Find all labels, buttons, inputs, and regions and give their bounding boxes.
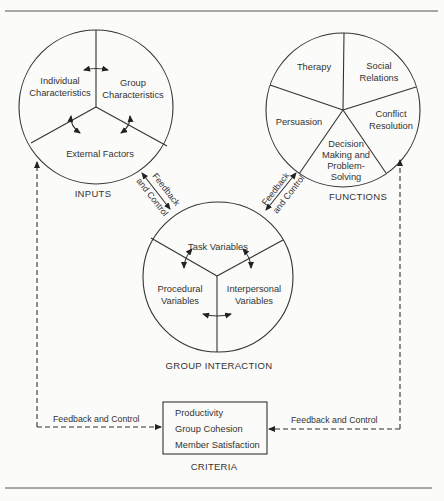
group-procedural-label-2: Variables	[161, 296, 199, 306]
criteria-box: Productivity Group Cohesion Member Satis…	[163, 402, 267, 472]
functions-conflict-label: Conflict	[375, 109, 406, 119]
inputs-group-label: Group	[120, 78, 146, 88]
inputs-individual-label-2: Characteristics	[29, 88, 91, 98]
criteria-item: Member Satisfaction	[175, 440, 260, 450]
inputs-circle: Individual Characteristics Group Charact…	[19, 30, 173, 199]
feedback-bottom-right-label: Feedback and Control	[291, 415, 378, 425]
inputs-external-label: External Factors	[66, 149, 134, 159]
group-dynamics-diagram: Individual Characteristics Group Charact…	[0, 0, 444, 501]
inputs-caption: INPUTS	[75, 188, 112, 199]
double-arrow-icon	[121, 116, 130, 133]
criteria-item: Group Cohesion	[175, 424, 243, 434]
functions-decision-label-2: Making and	[322, 150, 370, 160]
functions-decision-label: Decision	[328, 139, 364, 149]
inputs-individual-label: Individual	[40, 76, 79, 86]
group-interpersonal-label: Interpersonal	[227, 284, 281, 294]
group-procedural-label: Procedural	[158, 284, 203, 294]
functions-decision-label-3: Problem-	[327, 161, 365, 171]
feedback-left-loop: Feedback and Control	[37, 162, 161, 427]
functions-social-label: Social	[366, 61, 391, 71]
functions-caption: FUNCTIONS	[329, 191, 387, 202]
group-interaction-circle: Task Variables Procedural Variables Inte…	[143, 202, 293, 371]
functions-conflict-label-2: Resolution	[369, 121, 413, 131]
functions-social-label-2: Relations	[360, 73, 399, 83]
feedback-bottom-left-label: Feedback and Control	[53, 414, 140, 424]
group-task-label: Task Variables	[188, 242, 248, 252]
criteria-caption: CRITERIA	[191, 461, 238, 472]
functions-decision-label-4: Solving	[331, 172, 362, 182]
functions-therapy-label: Therapy	[297, 62, 331, 72]
feedback-functions-group: Feedback and Control	[260, 170, 307, 215]
functions-persuasion-label: Persuasion	[276, 117, 323, 127]
inputs-group-label-2: Characteristics	[102, 90, 164, 100]
group-interpersonal-label-2: Variables	[235, 296, 273, 306]
group-interaction-caption: GROUP INTERACTION	[166, 360, 273, 371]
feedback-inputs-group: Feedback and Control	[134, 171, 182, 218]
criteria-item: Productivity	[175, 408, 223, 418]
